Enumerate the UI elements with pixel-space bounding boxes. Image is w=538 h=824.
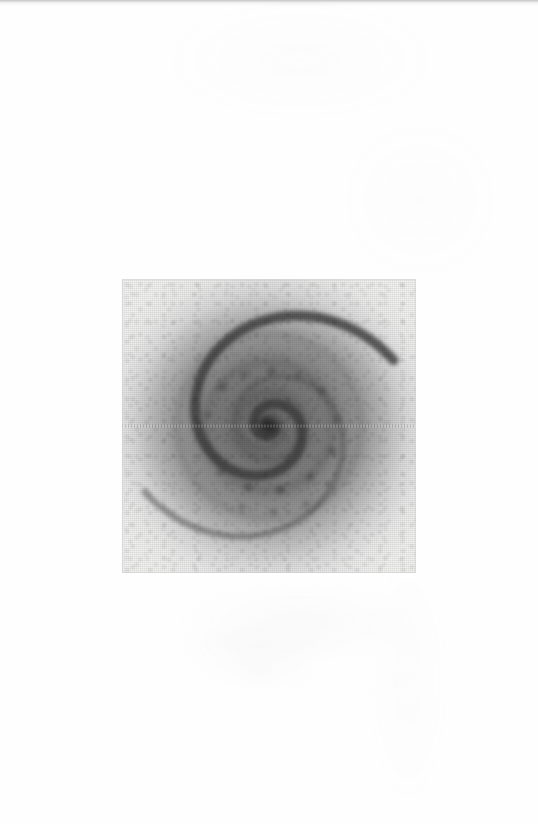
spiral-structure-graphic <box>122 279 416 573</box>
plate-image-panel[interactable] <box>122 279 416 573</box>
scanned-page-sheet <box>0 0 538 824</box>
page-top-edge-band <box>0 0 538 6</box>
spiral-core <box>256 413 282 439</box>
